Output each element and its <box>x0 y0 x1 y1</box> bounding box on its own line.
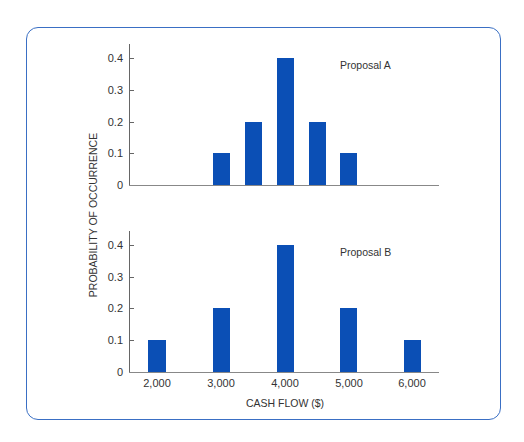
x-tick-label: 3,000 <box>196 377 246 389</box>
x-tick-label: 5,000 <box>324 377 374 389</box>
y-axis <box>129 231 130 373</box>
y-tick <box>129 277 134 278</box>
y-tick-label: 0.4 <box>93 239 123 251</box>
y-axis <box>129 44 130 186</box>
bar-b-4000 <box>277 245 294 372</box>
bar-a-3500 <box>245 122 262 185</box>
y-tick <box>129 308 134 309</box>
x-tick-label: 6,000 <box>387 377 437 389</box>
y-tick <box>129 90 134 91</box>
bar-a-3000 <box>213 153 230 185</box>
bar-a-4500 <box>309 122 326 185</box>
x-tick-label: 4,000 <box>260 377 310 389</box>
y-tick-label: 0.1 <box>93 147 123 159</box>
y-tick <box>129 245 134 246</box>
y-tick-label: 0.2 <box>93 302 123 314</box>
y-tick-label: 0.3 <box>93 271 123 283</box>
x-axis <box>129 185 439 186</box>
bar-b-5000 <box>340 308 357 372</box>
y-tick <box>129 122 134 123</box>
bar-a-5000 <box>340 153 357 185</box>
bar-b-2000 <box>148 340 166 372</box>
y-tick <box>129 340 134 341</box>
x-axis <box>129 372 439 373</box>
y-tick-label: 0.1 <box>93 334 123 346</box>
series-label-proposal-a: Proposal A <box>340 59 391 71</box>
series-label-proposal-b: Proposal B <box>340 246 391 258</box>
y-tick <box>129 58 134 59</box>
bar-b-6000 <box>404 340 421 372</box>
y-tick-label: 0 <box>93 366 123 378</box>
x-tick-label: 2,000 <box>132 377 182 389</box>
y-tick-label: 0.4 <box>93 52 123 64</box>
y-tick-label: 0.2 <box>93 116 123 128</box>
y-tick-label: 0.3 <box>93 84 123 96</box>
bar-a-4000 <box>277 58 294 185</box>
y-tick-label: 0 <box>93 179 123 191</box>
x-axis-label: CASH FLOW ($) <box>235 397 335 409</box>
bar-b-3000 <box>213 308 230 372</box>
y-tick <box>129 153 134 154</box>
